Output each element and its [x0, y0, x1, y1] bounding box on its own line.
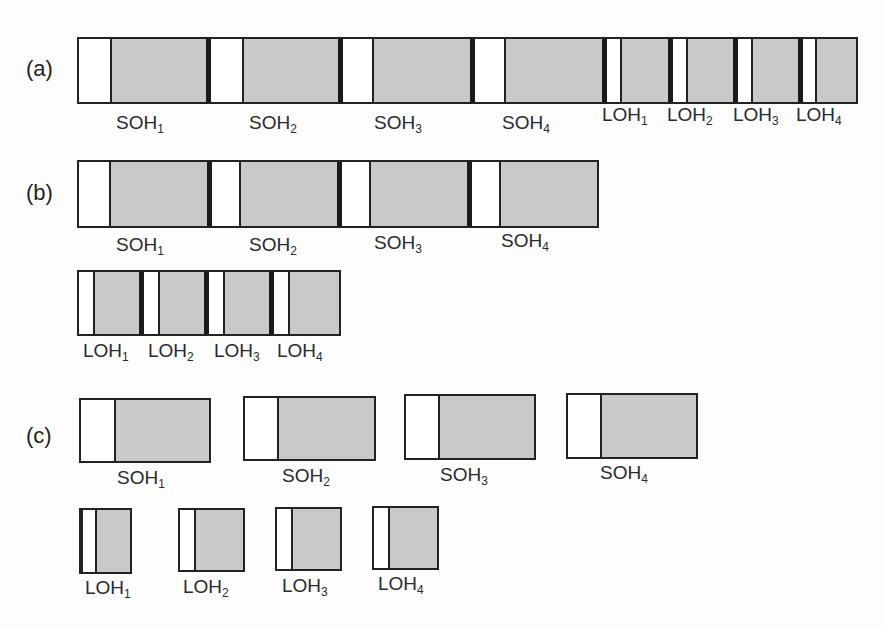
- label-c-soh1: SOH1: [117, 467, 165, 491]
- loh1-header: [79, 272, 93, 334]
- label-b-loh1: LOH1: [83, 340, 129, 364]
- panel-b-loh-bar: [77, 270, 341, 336]
- label-a-soh4: SOH4: [502, 112, 550, 136]
- soh1-payload: [114, 400, 209, 461]
- loh3-payload: [291, 509, 340, 569]
- loh3-header: [204, 272, 223, 334]
- soh3-payload: [438, 396, 534, 458]
- label-a-soh2: SOH2: [249, 112, 297, 136]
- soh2-header: [207, 162, 239, 226]
- label-a-loh3: LOH3: [733, 104, 779, 128]
- label-a-loh1: LOH1: [602, 104, 648, 128]
- soh4-payload: [499, 162, 597, 226]
- soh4-header: [470, 39, 504, 102]
- soh1-header: [79, 162, 109, 226]
- loh2-header: [180, 510, 194, 570]
- loh2-payload: [686, 39, 733, 102]
- loh4-header: [374, 508, 388, 568]
- label-b-loh4: LOH4: [277, 340, 323, 364]
- label-c-loh2: LOH2: [183, 576, 229, 600]
- loh2-payload: [158, 272, 204, 334]
- label-b-soh3: SOH3: [374, 232, 422, 256]
- panel-a-combined-bar: [77, 37, 858, 104]
- soh4-payload: [600, 395, 696, 457]
- loh4-payload: [388, 508, 437, 568]
- panel-b-label: (b): [26, 180, 53, 206]
- loh2-header: [139, 272, 158, 334]
- label-c-soh4: SOH4: [600, 462, 648, 486]
- loh4-header: [798, 39, 815, 102]
- loh3-header: [733, 39, 751, 102]
- soh4-header: [568, 395, 600, 457]
- loh3-payload: [751, 39, 798, 102]
- soh3-header: [337, 162, 369, 226]
- label-c-loh1: LOH1: [85, 577, 131, 601]
- panel-c-label: (c): [26, 423, 52, 449]
- loh1-header: [81, 510, 95, 572]
- soh2-header: [206, 39, 242, 102]
- soh4-header: [467, 162, 499, 226]
- soh2-payload: [239, 162, 337, 226]
- label-a-loh4: LOH4: [796, 104, 842, 128]
- label-a-loh2: LOH2: [667, 104, 713, 128]
- soh1-header: [79, 39, 110, 102]
- soh1-payload: [110, 39, 206, 102]
- label-b-soh4: SOH4: [501, 230, 549, 254]
- label-c-loh4: LOH4: [378, 573, 424, 597]
- loh4-header: [269, 272, 288, 334]
- panel-c-loh2-packet: [178, 508, 245, 572]
- panel-c-soh1-packet: [79, 398, 211, 463]
- label-b-soh2: SOH2: [249, 234, 297, 258]
- loh4-payload: [815, 39, 856, 102]
- label-a-soh3: SOH3: [374, 112, 422, 136]
- panel-a-label: (a): [26, 56, 53, 82]
- label-b-soh1: SOH1: [116, 234, 164, 258]
- panel-c-loh1-packet: [79, 508, 132, 574]
- label-a-soh1: SOH1: [116, 112, 164, 136]
- panel-c-soh3-packet: [404, 394, 536, 460]
- soh3-payload: [372, 39, 470, 102]
- soh2-payload: [277, 398, 374, 459]
- soh1-header: [81, 400, 114, 461]
- loh1-payload: [93, 272, 139, 334]
- loh3-header: [277, 509, 291, 569]
- loh3-payload: [223, 272, 269, 334]
- soh3-header: [338, 39, 372, 102]
- soh4-payload: [504, 39, 602, 102]
- loh1-payload: [620, 39, 668, 102]
- loh2-payload: [194, 510, 243, 570]
- label-b-loh3: LOH3: [214, 340, 260, 364]
- loh2-header: [668, 39, 686, 102]
- loh4-payload: [288, 272, 339, 334]
- panel-c-soh2-packet: [243, 396, 376, 461]
- panel-b-soh-bar: [77, 160, 599, 228]
- loh1-payload: [95, 510, 130, 572]
- panel-c-loh4-packet: [372, 506, 439, 570]
- loh1-header: [602, 39, 620, 102]
- soh1-payload: [109, 162, 207, 226]
- label-b-loh2: LOH2: [148, 340, 194, 364]
- label-c-soh2: SOH2: [282, 465, 330, 489]
- soh2-header: [245, 398, 277, 459]
- soh2-payload: [242, 39, 338, 102]
- panel-c-soh4-packet: [566, 393, 698, 459]
- panel-c-loh3-packet: [275, 507, 342, 571]
- label-c-soh3: SOH3: [440, 464, 488, 488]
- soh3-payload: [369, 162, 467, 226]
- soh3-header: [406, 396, 438, 458]
- label-c-loh3: LOH3: [282, 575, 328, 599]
